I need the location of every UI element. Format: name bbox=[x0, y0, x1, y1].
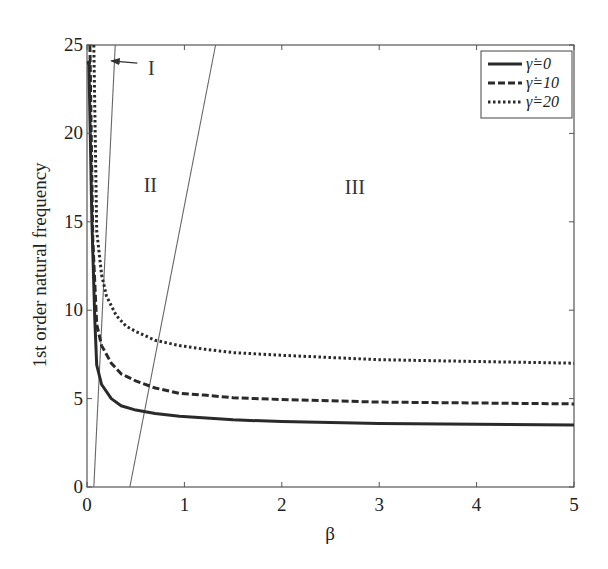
natural-frequency-chart: 0123450510152025 IIIIII β 1st order natu… bbox=[0, 0, 608, 569]
boundary-II-III bbox=[130, 45, 216, 487]
x-tick-label: 1 bbox=[180, 494, 190, 515]
region-annotations: IIIIII bbox=[111, 57, 364, 197]
region-label-III: III bbox=[345, 176, 365, 198]
x-tick-label: 5 bbox=[569, 494, 579, 515]
x-axis-label: β bbox=[325, 523, 335, 544]
x-tick-label: 2 bbox=[277, 494, 287, 515]
y-tick-label: 5 bbox=[74, 388, 84, 409]
legend-label: γ̇=20 bbox=[526, 93, 559, 111]
y-axis-label: 1st order natural frequency bbox=[29, 162, 50, 368]
x-tick-label: 0 bbox=[82, 494, 92, 515]
arrow-icon bbox=[111, 61, 137, 63]
x-tick-label: 4 bbox=[472, 494, 482, 515]
x-tick-label: 3 bbox=[374, 494, 384, 515]
y-tick-label: 15 bbox=[64, 211, 83, 232]
region-label-I: I bbox=[148, 57, 155, 79]
legend-label: γ̇=0 bbox=[526, 55, 551, 73]
y-tick-label: 20 bbox=[64, 122, 83, 143]
series-start-marker bbox=[87, 60, 91, 64]
legend: γ̇=0γ̇=10γ̇=20 bbox=[481, 51, 572, 118]
y-tick-label: 0 bbox=[74, 476, 84, 497]
y-tick-label: 10 bbox=[64, 299, 83, 320]
legend-label: γ̇=10 bbox=[526, 74, 559, 92]
y-tick-label: 25 bbox=[64, 34, 83, 55]
region-label-II: II bbox=[144, 174, 157, 196]
boundary-I-II bbox=[94, 45, 115, 487]
region-boundaries bbox=[94, 45, 216, 487]
